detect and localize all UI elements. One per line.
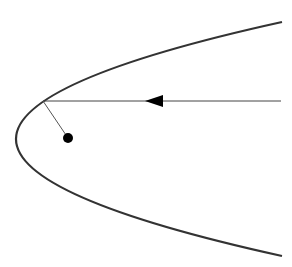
reflected-ray bbox=[43, 101, 68, 138]
diagram-svg bbox=[0, 0, 292, 267]
focus-point bbox=[63, 133, 73, 143]
parabola-curve bbox=[16, 22, 282, 256]
parabolic-reflector-diagram bbox=[0, 0, 292, 267]
arrow-left-icon bbox=[145, 95, 163, 107]
